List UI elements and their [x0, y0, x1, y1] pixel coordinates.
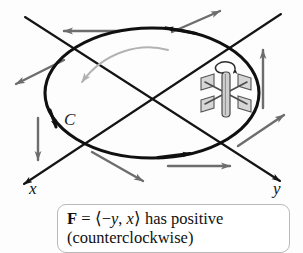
curve-c-arrowhead-bottom	[158, 154, 190, 158]
open-angle-bracket: ⟨	[95, 209, 102, 228]
caption-line-2: (counterclockwise)	[67, 228, 289, 247]
paddle-blade-upper-right	[238, 74, 251, 90]
paddle-wheel	[201, 62, 251, 117]
caption-line-1-tail: has positive	[145, 209, 223, 228]
circulation-arc	[82, 47, 168, 82]
curve-c-label: C	[64, 110, 76, 129]
axis-y-label: y	[271, 179, 281, 198]
paddle-blade-upper-left	[201, 74, 214, 90]
paddle-spin-arrow	[216, 62, 235, 73]
component-2-variable: x	[127, 209, 134, 228]
field-symbol: F	[67, 209, 77, 228]
caption-box: F = ⟨−y, x⟩ has positive (counterclockwi…	[57, 204, 290, 253]
paddle-blade-lower-right	[238, 96, 251, 112]
minus-sign: −	[102, 209, 111, 228]
axis-x-label: x	[28, 179, 37, 198]
vector-arrow-right-lower	[238, 115, 284, 146]
paddle-blade-lower-left	[201, 96, 214, 112]
figure-root: x y C F = ⟨−y, x⟩ has positive (counterc…	[0, 0, 303, 253]
paddle-axle	[222, 72, 230, 117]
caption-text: F = ⟨−y, x⟩ has positive (counterclockwi…	[58, 205, 289, 248]
circulation-arrow-group	[82, 47, 168, 82]
close-angle-bracket: ⟩	[134, 209, 141, 228]
equals-glyph: =	[81, 209, 90, 228]
caption-line-1: F = ⟨−y, x⟩ has positive	[67, 209, 289, 228]
